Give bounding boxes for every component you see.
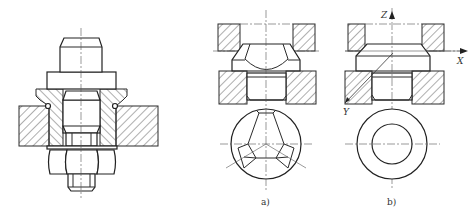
o-ring-right [113, 104, 118, 109]
x-axis-label: X [456, 56, 464, 66]
collar [47, 72, 116, 89]
caption-a: a) [261, 197, 270, 207]
base-plate-right-section [116, 106, 158, 146]
pin-thread [66, 133, 97, 146]
lower-plate-right [286, 71, 316, 104]
upper-block-right [293, 24, 315, 51]
z-axis-label: Z [380, 10, 388, 20]
pin-chamfer-top [63, 91, 100, 100]
hex-nut-face-center [66, 150, 99, 174]
bolt-end [68, 174, 95, 191]
bolt-bushing-assembly [19, 28, 158, 198]
hex-nut-face-right [97, 150, 116, 174]
technical-drawing: a) Z X Y b) [0, 0, 475, 223]
pin-chamfer-bottom [63, 126, 100, 133]
spherical-seat-view: a) [213, 10, 320, 207]
lower-plate-right-b [412, 71, 444, 104]
conical-seat [356, 44, 430, 71]
washer [47, 146, 117, 149]
upper-block-left [218, 24, 240, 51]
conical-seat-view: Z X Y b) [343, 8, 468, 207]
upper-block-left-b [348, 24, 365, 51]
caption-b: b) [387, 197, 396, 207]
o-ring-left [46, 104, 51, 109]
hex-nut-face-left [49, 150, 68, 174]
lower-plate-left [219, 71, 247, 104]
y-axis-label: Y [343, 107, 350, 117]
base-plate-left-section [19, 106, 49, 146]
upper-block-right-b [422, 24, 444, 51]
